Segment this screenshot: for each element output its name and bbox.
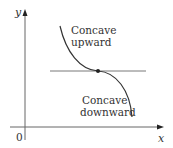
origin-label: 0	[16, 131, 23, 143]
x-axis-arrow-icon	[157, 125, 164, 130]
concave-upward-label-line1: Concave	[71, 24, 116, 36]
inflection-diagram: y x 0 Concave upward Concave downward	[0, 0, 173, 148]
inflection-point	[96, 69, 100, 73]
y-axis-arrow-icon	[23, 9, 28, 16]
x-axis-label: x	[158, 132, 165, 145]
concave-downward-label-line2: downward	[80, 106, 136, 118]
concave-upward-label-line2: upward	[71, 36, 112, 48]
concave-downward-label-line1: Concave	[82, 94, 127, 106]
y-axis-label: y	[14, 6, 22, 19]
